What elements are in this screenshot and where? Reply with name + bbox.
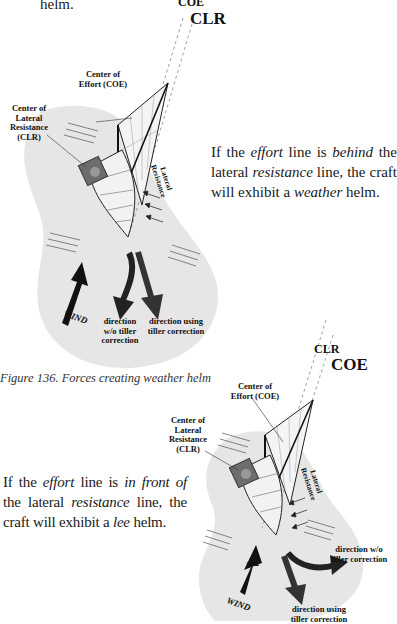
coe-line-label: COE (331, 355, 368, 375)
center-of-lateral-resistance-label: Center of Lateral Resistance (CLR) (163, 416, 213, 454)
lee-helm-paragraph: If the effort line is in front of the la… (3, 472, 187, 532)
direction-with-correction-label: direction using tiller correction (286, 605, 352, 624)
center-of-effort-label: Center of Effort (COE) (220, 382, 290, 401)
direction-without-correction-label: direction w/o tiller correction (323, 545, 395, 564)
